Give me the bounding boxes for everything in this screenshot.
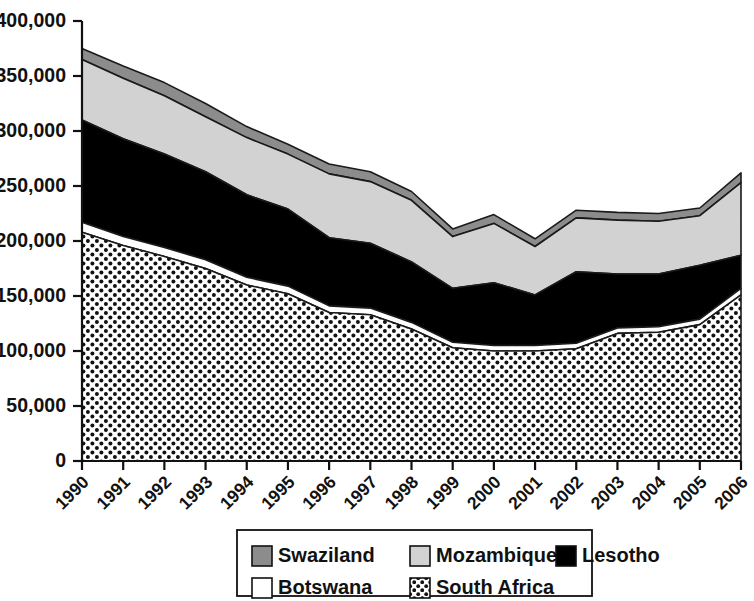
y-axis: 050,000100,000150,000200,000250,000300,0… (0, 9, 82, 471)
legend-swatch-south-africa[interactable] (410, 578, 430, 598)
chart-container: 050,000100,000150,000200,000250,000300,0… (0, 0, 754, 601)
y-tick-label: 350,000 (0, 64, 66, 86)
x-tick-label: 1997 (339, 472, 381, 514)
x-tick-label: 1996 (298, 472, 340, 514)
x-tick-label: 1998 (381, 472, 423, 514)
x-tick-label: 1999 (422, 472, 464, 514)
y-tick-marks (73, 21, 82, 461)
stacked-area-chart: 050,000100,000150,000200,000250,000300,0… (0, 0, 754, 601)
x-tick-label: 2004 (628, 472, 670, 514)
series-areas (82, 49, 741, 462)
x-tick-label: 2006 (710, 472, 752, 514)
y-tick-label: 50,000 (6, 394, 66, 416)
legend-label-south-africa: South Africa (436, 576, 555, 598)
y-tick-labels: 050,000100,000150,000200,000250,000300,0… (0, 9, 66, 471)
legend: SwazilandMozambiqueLesothoBotswanaSouth … (237, 530, 660, 598)
x-tick-label: 1995 (257, 472, 299, 514)
x-tick-label: 1990 (51, 472, 93, 514)
y-tick-label: 300,000 (0, 119, 66, 141)
plot-area (82, 49, 741, 462)
legend-label-mozambique: Mozambique (436, 544, 557, 566)
legend-swatch-lesotho[interactable] (556, 546, 576, 566)
x-axis: 1990199119921993199419951996199719981999… (51, 461, 752, 513)
x-tick-label: 1993 (175, 472, 217, 514)
legend-label-botswana: Botswana (278, 576, 373, 598)
x-tick-label: 1991 (92, 472, 134, 514)
x-tick-label: 2000 (463, 472, 505, 514)
legend-label-swaziland: Swaziland (278, 544, 375, 566)
x-tick-labels: 1990199119921993199419951996199719981999… (51, 472, 752, 514)
y-tick-label: 100,000 (0, 339, 66, 361)
legend-swatch-swaziland[interactable] (252, 546, 272, 566)
x-tick-label: 2003 (587, 472, 629, 514)
x-tick-label: 1992 (134, 472, 176, 514)
x-tick-label: 1994 (216, 472, 258, 514)
y-tick-label: 400,000 (0, 9, 66, 31)
x-tick-label: 2002 (545, 472, 587, 514)
legend-swatch-botswana[interactable] (252, 578, 272, 598)
x-tick-label: 2001 (504, 472, 546, 514)
y-tick-label: 0 (55, 449, 66, 471)
y-tick-label: 150,000 (0, 284, 66, 306)
x-tick-label: 2005 (669, 472, 711, 514)
legend-swatch-mozambique[interactable] (410, 546, 430, 566)
y-tick-label: 250,000 (0, 174, 66, 196)
legend-label-lesotho: Lesotho (582, 544, 660, 566)
x-tick-marks (82, 461, 741, 470)
y-tick-label: 200,000 (0, 229, 66, 251)
